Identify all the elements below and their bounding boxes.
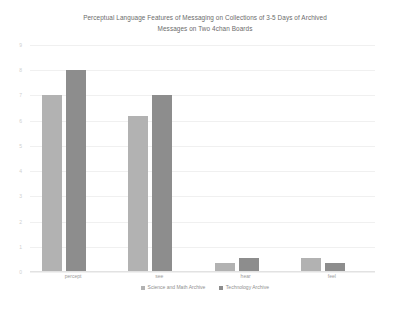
- x-axis-tick-label: hear: [241, 274, 251, 279]
- y-axis-tick-label: 0: [19, 270, 22, 275]
- legend-item[interactable]: Science and Math Archive: [141, 285, 205, 290]
- bar: [128, 116, 148, 272]
- bar-group: [203, 45, 289, 272]
- chart-title: Perceptual Language Features of Messagin…: [40, 12, 370, 34]
- bar: [66, 70, 86, 272]
- y-axis-tick-label: 8: [19, 68, 22, 73]
- y-axis-tick-label: 9: [19, 43, 22, 48]
- y-axis-tick-label: 7: [19, 93, 22, 98]
- bar-group: [30, 45, 116, 272]
- bar-chart: Perceptual Language Features of Messagin…: [0, 0, 410, 319]
- x-axis-tick-label: percept: [65, 274, 82, 279]
- y-axis-tick-label: 5: [19, 143, 22, 148]
- y-axis-tick-label: 3: [19, 194, 22, 199]
- bar: [152, 95, 172, 272]
- bar-group: [116, 45, 202, 272]
- legend-item[interactable]: Technology Archive: [219, 285, 269, 290]
- x-axis-tick-label: feel: [328, 274, 336, 279]
- legend-label: Science and Math Archive: [148, 285, 206, 290]
- legend-label: Technology Archive: [226, 285, 269, 290]
- x-axis-tick-label: see: [155, 274, 163, 279]
- plot-area: [30, 45, 375, 272]
- bar-group: [289, 45, 375, 272]
- y-axis-tick-label: 1: [19, 244, 22, 249]
- bar: [42, 95, 62, 272]
- legend-swatch-icon: [219, 286, 223, 290]
- y-axis: 0123456789: [0, 45, 28, 272]
- y-axis-tick-label: 4: [19, 169, 22, 174]
- bar: [239, 258, 259, 272]
- y-axis-tick-label: 2: [19, 219, 22, 224]
- legend-swatch-icon: [141, 286, 145, 290]
- chart-legend: Science and Math ArchiveTechnology Archi…: [0, 285, 410, 290]
- bars-layer: [30, 45, 375, 272]
- y-axis-tick-label: 6: [19, 118, 22, 123]
- x-axis-line: [30, 271, 375, 272]
- bar: [301, 258, 321, 272]
